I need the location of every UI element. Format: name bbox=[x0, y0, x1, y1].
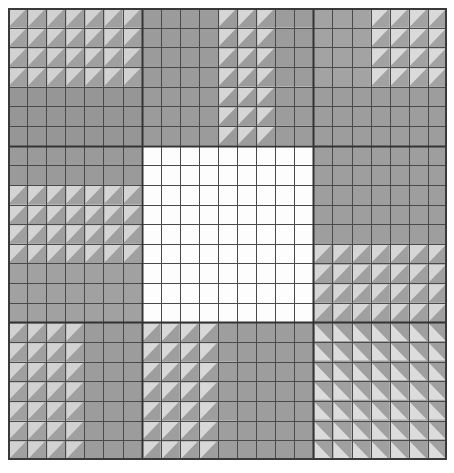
figure-canvas bbox=[0, 0, 454, 473]
grid-plot-area bbox=[8, 8, 447, 460]
heatmap-grid-canvas bbox=[8, 8, 447, 460]
